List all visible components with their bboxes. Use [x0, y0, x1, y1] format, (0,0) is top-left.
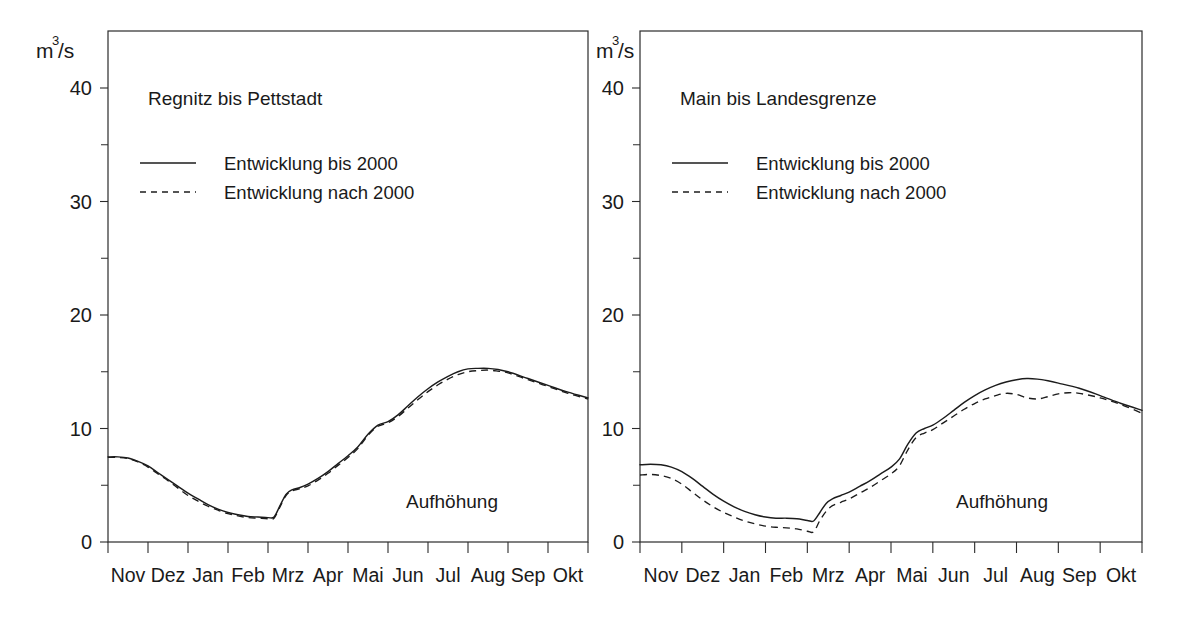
x-tick-label-mai-right: Mai — [896, 564, 927, 586]
x-tick-label-dez-right: Dez — [685, 564, 720, 586]
legend-label-bis-2000-right: Entwicklung bis 2000 — [756, 153, 930, 174]
series-line-nach-2000-right — [640, 393, 1142, 533]
legend-left: Entwicklung bis 2000 Entwicklung nach 20… — [140, 153, 414, 203]
x-tick-label-sep-right: Sep — [1062, 564, 1097, 586]
y-tick-label-30-right: 30 — [602, 191, 624, 213]
y-tick-label-20: 20 — [70, 304, 92, 326]
panel-title-left: Regnitz bis Pettstadt — [148, 88, 323, 109]
x-tick-label-jun: Jun — [392, 564, 423, 586]
y-tick-label-0-right: 0 — [613, 531, 624, 553]
y-axis-unit-base: m — [36, 39, 54, 62]
x-tick-label-jul: Jul — [436, 564, 461, 586]
y-tick-label-10-right: 10 — [602, 418, 624, 440]
x-tick-label-nov: Nov — [111, 564, 146, 586]
y-axis-unit-suffix: /s — [58, 39, 74, 62]
y-tick-label-10: 10 — [70, 418, 92, 440]
x-tick-label-feb-right: Feb — [770, 564, 804, 586]
x-tick-label-jan: Jan — [192, 564, 223, 586]
x-tick-label-mrz-right: Mrz — [812, 564, 845, 586]
y-axis-unit-suffix-right: /s — [618, 39, 634, 62]
legend-label-nach-2000-right: Entwicklung nach 2000 — [756, 182, 946, 203]
x-tick-label-okt-right: Okt — [1106, 564, 1137, 586]
annotation-aufhoehung-right: Aufhöhung — [956, 491, 1048, 512]
y-tick-label-30: 30 — [70, 191, 92, 213]
figure-container: m 3 /s 0 10 20 30 40 — [0, 0, 1183, 621]
x-tick-label-feb: Feb — [231, 564, 265, 586]
x-tick-label-apr: Apr — [313, 564, 344, 586]
y-tick-label-40-right: 40 — [602, 77, 624, 99]
chart-panel-main: m 3 /s 0 10 20 30 40 — [532, 0, 1183, 621]
x-tick-label-jan-right: Jan — [729, 564, 760, 586]
x-axis-ticks-right — [640, 542, 1142, 553]
x-tick-label-aug: Aug — [471, 564, 506, 586]
legend-label-bis-2000-left: Entwicklung bis 2000 — [224, 153, 398, 174]
x-tick-label-apr-right: Apr — [855, 564, 886, 586]
x-axis-ticks-left — [108, 542, 588, 553]
x-tick-label-nov-right: Nov — [644, 564, 679, 586]
x-tick-label-mrz: Mrz — [272, 564, 305, 586]
x-tick-label-dez: Dez — [151, 564, 186, 586]
y-tick-label-20-right: 20 — [602, 304, 624, 326]
chart-svg-left: m 3 /s 0 10 20 30 40 — [0, 0, 600, 621]
series-line-nach-2000-left — [108, 370, 588, 519]
x-tick-label-jul-right: Jul — [983, 564, 1008, 586]
y-axis-ticks-right — [632, 88, 640, 542]
series-line-bis-2000-left — [108, 368, 588, 518]
series-line-bis-2000-right — [640, 379, 1142, 522]
chart-svg-right: m 3 /s 0 10 20 30 40 — [532, 0, 1183, 621]
y-axis-unit-base-right: m — [596, 39, 614, 62]
y-tick-label-0: 0 — [81, 531, 92, 553]
y-tick-label-40: 40 — [70, 77, 92, 99]
x-tick-label-aug-right: Aug — [1020, 564, 1055, 586]
x-tick-label-jun-right: Jun — [938, 564, 969, 586]
legend-label-nach-2000-left: Entwicklung nach 2000 — [224, 182, 414, 203]
legend-right: Entwicklung bis 2000 Entwicklung nach 20… — [672, 153, 946, 203]
x-tick-label-mai: Mai — [352, 564, 383, 586]
annotation-aufhoehung-left: Aufhöhung — [406, 491, 498, 512]
y-axis-ticks-left — [100, 88, 108, 542]
chart-panel-regnitz: m 3 /s 0 10 20 30 40 — [0, 0, 600, 621]
panel-title-right: Main bis Landesgrenze — [680, 88, 876, 109]
